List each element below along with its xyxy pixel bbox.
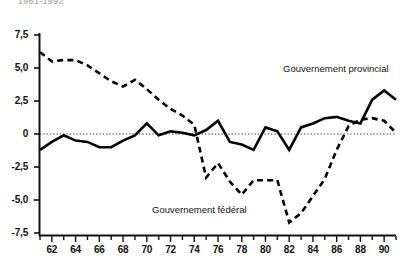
- chart-plot-area: [0, 0, 404, 262]
- x-tick-label: 70: [135, 244, 159, 255]
- x-axis-ticks: [40, 236, 396, 242]
- y-tick-label: 5,0: [2, 62, 28, 73]
- x-tick-label: 76: [206, 244, 230, 255]
- y-tick-label: -5,0: [2, 194, 28, 205]
- x-tick-label: 90: [372, 244, 396, 255]
- series-line-federal: [40, 52, 396, 222]
- x-tick-label: 82: [277, 244, 301, 255]
- x-tick-label: 66: [87, 244, 111, 255]
- series-line-provincial: [40, 90, 396, 149]
- x-tick-label: 62: [40, 244, 64, 255]
- y-tick-label: -2,5: [2, 161, 28, 172]
- x-tick-label: 78: [230, 244, 254, 255]
- x-tick-label: 88: [348, 244, 372, 255]
- series-label-provincial: Gouvernement provincial: [283, 63, 389, 74]
- chart-container: 1961-1992 7,55,02,50-2,5-5,0-7,5 6264666…: [0, 0, 404, 262]
- x-tick-label: 86: [325, 244, 349, 255]
- y-tick-label: 7,5: [2, 29, 28, 40]
- y-tick-label: -7,5: [2, 227, 28, 238]
- x-tick-label: 84: [301, 244, 325, 255]
- x-tick-label: 64: [64, 244, 88, 255]
- x-tick-label: 68: [111, 244, 135, 255]
- y-tick-label: 2,5: [2, 95, 28, 106]
- x-tick-label: 74: [182, 244, 206, 255]
- x-tick-label: 80: [253, 244, 277, 255]
- series-label-federal: Gouvernement fédéral: [152, 204, 247, 215]
- x-tick-label: 72: [159, 244, 183, 255]
- y-tick-label: 0: [2, 128, 28, 139]
